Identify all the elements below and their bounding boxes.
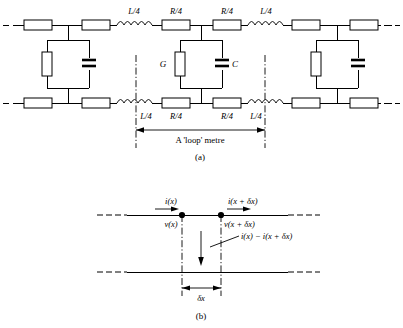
resistor-bottom-2: [82, 98, 110, 108]
panel-a-caption: (a): [195, 152, 205, 162]
panel-b-boundaries: [182, 215, 221, 296]
series-label-bottom-1: L/4: [139, 111, 152, 121]
resistor-bottom-4: [213, 98, 241, 108]
shunt-branch-right: [311, 25, 365, 103]
shunt-current-arrow: [198, 231, 204, 266]
shunt-branch-left: [42, 25, 96, 103]
series-label-top-1: L/4: [127, 6, 140, 16]
figure-root: G C L/4 R/4 R/4 L/4 L/4 R/4: [0, 0, 403, 328]
series-label-bottom-4: L/4: [249, 111, 262, 121]
series-label-top-3: R/4: [220, 6, 234, 16]
delta-x-dimension: δx: [182, 285, 221, 303]
loop-arrow-left: [136, 127, 144, 133]
panel-b-top-conductor: [97, 206, 320, 218]
shunt-branch-centre: G C: [160, 25, 239, 103]
delta-x-arrow-left: [182, 285, 190, 290]
shunt-resistor-centre: [175, 52, 185, 76]
delta-x-label: δx: [197, 293, 205, 303]
resistor-top-2: [82, 20, 110, 30]
resistor-top-3: [162, 20, 190, 30]
inductor-top-1: [117, 22, 152, 26]
loop-span-label: A 'loop' metre: [175, 135, 224, 145]
current-out-label: i(x + δx): [228, 196, 258, 206]
panel-a-bottom-labels: L/4 R/4 R/4 L/4: [139, 111, 262, 121]
series-label-top-2: R/4: [169, 6, 183, 16]
loop-dimension: A 'loop' metre: [136, 127, 265, 145]
inductor-bottom-1: [117, 100, 152, 104]
voltage-in-label: v(x): [164, 219, 177, 229]
resistor-bottom-1: [24, 98, 52, 108]
shunt-current-leader: [210, 236, 239, 247]
series-label-top-4: L/4: [259, 6, 272, 16]
resistor-top-5: [292, 20, 320, 30]
panel-a-top-labels: L/4 R/4 R/4 L/4: [127, 6, 272, 16]
resistor-bottom-5: [292, 98, 320, 108]
current-in-label: i(x): [165, 196, 177, 206]
inductor-bottom-2: [248, 100, 283, 104]
panel-b-caption: (b): [196, 311, 207, 321]
loop-arrow-right: [257, 127, 265, 133]
panel-b-labels: i(x) v(x) i(x + δx) v(x + δx) i(x) − i(x…: [164, 196, 292, 241]
transmission-line-figure: G C L/4 R/4 R/4 L/4 L/4 R/4: [0, 0, 403, 328]
series-label-bottom-3: R/4: [220, 111, 234, 121]
current-arrow-out: [227, 206, 251, 211]
delta-x-arrow-right: [213, 285, 221, 290]
conductance-label: G: [160, 59, 167, 69]
resistor-top-6: [350, 20, 378, 30]
resistor-top-4: [213, 20, 241, 30]
series-label-bottom-2: R/4: [169, 111, 183, 121]
resistor-top-1: [24, 20, 52, 30]
current-arrow-in: [155, 206, 179, 211]
shunt-resistor-right: [311, 52, 321, 76]
shunt-resistor-left: [42, 52, 52, 76]
voltage-out-label: v(x + δx): [224, 219, 255, 229]
capacitance-label: C: [232, 59, 239, 69]
inductor-top-2: [248, 22, 283, 26]
shunt-current-label: i(x) − i(x + δx): [241, 231, 292, 241]
resistor-bottom-6: [350, 98, 378, 108]
resistor-bottom-3: [162, 98, 190, 108]
